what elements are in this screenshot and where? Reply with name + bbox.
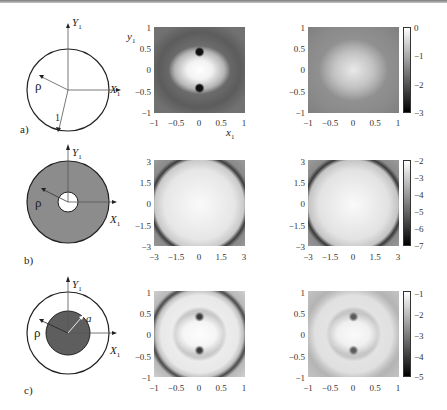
schematic-c-disk-with-inner (0, 282, 140, 397)
schematic-a-disk (0, 18, 140, 133)
schematic-c-inner-radius-label: a (86, 312, 92, 324)
tick: −1.5 (279, 222, 305, 231)
tick: 1 (231, 384, 257, 393)
tick: 1 (385, 384, 411, 393)
ylabel: y1 (127, 30, 135, 45)
heatmap-a-left (154, 27, 245, 113)
tick: 0 (279, 200, 305, 209)
arrow-up-icon (64, 144, 72, 154)
tick: 0 (125, 331, 151, 340)
tick: 3 (125, 158, 151, 167)
top-border (0, 0, 447, 3)
heatmap-a-right (308, 27, 399, 113)
tick: −3 (125, 243, 151, 252)
tick: −0.5 (279, 353, 305, 362)
schematic-a-radius-label: 1 (55, 112, 60, 123)
tick: 0.5 (125, 45, 151, 54)
tick: −5 (414, 373, 424, 382)
tick: 0 (279, 331, 305, 340)
heatmap-c-right (308, 291, 399, 377)
schematic-a-rho-label: ρ (35, 78, 42, 94)
tick: 0.5 (279, 310, 305, 319)
tick: −4 (414, 353, 424, 362)
tick: −5 (414, 208, 424, 217)
tick: 3 (231, 253, 257, 262)
tick: 1 (125, 289, 151, 298)
tick: 1.5 (125, 179, 151, 188)
schematic-b-x-axis-label: X1 (110, 213, 120, 228)
schematic-a-x-axis-label: X1 (110, 83, 120, 98)
heatmap-b-right (308, 160, 399, 246)
schematic-b-y-axis-label: Y1 (72, 146, 82, 161)
tick: −3 (414, 332, 424, 341)
tick: −1 (414, 290, 424, 299)
schematic-a-y-axis-label: Y1 (72, 16, 82, 31)
tick: 1 (231, 119, 257, 128)
tick: −1.5 (125, 222, 151, 231)
tick: −1 (414, 52, 424, 61)
colorbar-a (403, 27, 411, 113)
tick: −2 (414, 81, 424, 90)
panel-label-a: a) (20, 123, 29, 135)
tick: −0.5 (125, 353, 151, 362)
tick: −6 (414, 225, 424, 234)
tick: −7 (414, 242, 424, 251)
tick: −1 (279, 374, 305, 383)
tick: 1 (385, 119, 411, 128)
tick: 0 (125, 200, 151, 209)
xlabel: x1 (226, 126, 234, 141)
colorbar-c (403, 291, 411, 377)
tick: 3 (385, 253, 411, 262)
tick: 0.5 (279, 45, 305, 54)
tick: −1 (125, 109, 151, 118)
tick: −3 (414, 109, 424, 118)
tick: −1 (125, 374, 151, 383)
tick: −4 (414, 191, 424, 200)
schematic-c-x-axis-label: X1 (110, 344, 120, 359)
heatmap-c-left (154, 291, 245, 377)
schematic-c-rho-label: ρ (34, 325, 41, 341)
schematic-c-y-axis-label: Y1 (72, 278, 82, 293)
schematic-b-annulus (0, 150, 140, 265)
tick: −0.5 (125, 88, 151, 97)
tick: −2 (414, 311, 424, 320)
tick: −3 (279, 243, 305, 252)
arrow-up-icon (64, 276, 72, 286)
tick: 1 (279, 24, 305, 33)
tick: 0 (414, 24, 419, 33)
tick: 0 (125, 66, 151, 75)
tick: 1 (279, 289, 305, 298)
schematic-b-rho-label: ρ (35, 195, 42, 211)
colorbar-b (403, 160, 411, 246)
tick: −0.5 (279, 88, 305, 97)
panel-label-b: b) (24, 254, 33, 266)
tick: 0.5 (125, 310, 151, 319)
tick: −2 (414, 157, 424, 166)
tick: 0 (279, 66, 305, 75)
panel-label-c: c) (24, 384, 33, 396)
tick: −3 (414, 174, 424, 183)
heatmap-b-left (154, 160, 245, 246)
tick: 1.5 (279, 179, 305, 188)
tick: −1 (279, 109, 305, 118)
tick: 3 (279, 158, 305, 167)
